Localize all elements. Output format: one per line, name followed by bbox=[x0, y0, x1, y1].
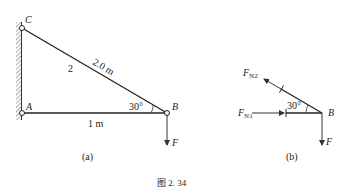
angle-arc-b bbox=[306, 105, 308, 113]
fn2-label: FN2 bbox=[242, 67, 258, 80]
angle-arc-a bbox=[151, 105, 153, 113]
force-f-label-a: F bbox=[171, 137, 179, 148]
force-f-label-b: F bbox=[325, 136, 333, 147]
fn2-arrow bbox=[264, 79, 281, 89]
length-bc: 2.0 m bbox=[91, 56, 116, 77]
length-ab: 1 m bbox=[88, 118, 104, 129]
subfig-b-label: (b) bbox=[286, 151, 298, 163]
figure-caption: 图 2. 34 bbox=[157, 178, 187, 188]
fn1-label: FN1 bbox=[237, 107, 253, 120]
wall-hatch bbox=[16, 22, 21, 120]
pin-c bbox=[20, 26, 25, 31]
fn2-sub: N2 bbox=[249, 72, 258, 80]
member-number: 2 bbox=[68, 63, 73, 74]
label-c: C bbox=[25, 14, 32, 25]
member-bc bbox=[22, 28, 167, 113]
figure-2-34: C A B 2 2.0 m 1 m 30° F (a) B 30° F FN2 … bbox=[0, 0, 349, 192]
label-b: B bbox=[172, 101, 178, 112]
pin-a bbox=[20, 111, 25, 116]
label-a: A bbox=[25, 101, 33, 112]
pin-b bbox=[165, 111, 170, 116]
label-b2: B bbox=[328, 107, 334, 118]
subfigure-a: C A B 2 2.0 m 1 m 30° F (a) bbox=[16, 14, 179, 163]
subfig-a-label: (a) bbox=[82, 151, 93, 163]
subfigure-b: B 30° F FN2 FN1 (b) bbox=[237, 67, 334, 163]
angle-b: 30° bbox=[287, 100, 301, 111]
angle-a: 30° bbox=[129, 101, 143, 112]
fn1-sub: N1 bbox=[244, 112, 253, 120]
